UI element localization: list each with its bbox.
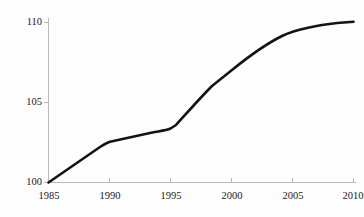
y-tick-label-100: 100	[12, 177, 42, 188]
x-tick-label-1995: 1995	[152, 191, 190, 202]
x-tick-label-1990: 1990	[91, 191, 129, 202]
x-tick-label-2010: 2010	[334, 191, 364, 202]
y-tick-label-105: 105	[12, 97, 42, 108]
data-series-line	[49, 22, 354, 183]
x-tick-label-1985: 1985	[30, 191, 68, 202]
line-chart: 1985=100 110 105 100 1985 1990 1995 2000…	[0, 0, 364, 217]
x-tick-label-2005: 2005	[274, 191, 312, 202]
y-tick-label-110: 110	[12, 17, 42, 28]
x-tick-label-2000: 2000	[213, 191, 251, 202]
plot-area	[0, 0, 364, 217]
